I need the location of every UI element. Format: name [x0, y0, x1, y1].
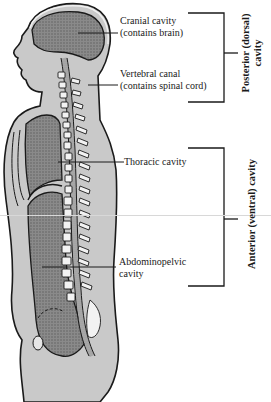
vertebral-label-line2: (contains spinal cord): [120, 80, 207, 92]
vertebral-canal-label: Vertebral canal (contains spinal cord): [120, 68, 207, 92]
vertebral-label-line1: Vertebral canal: [120, 68, 207, 80]
thoracic-cavity-label: Thoracic cavity: [124, 156, 186, 168]
body-cavities-illustration: [0, 0, 271, 402]
thoracic-label-line1: Thoracic cavity: [124, 156, 186, 168]
cranial-label-line1: Cranial cavity: [120, 15, 183, 27]
cranial-label-line2: (contains brain): [120, 27, 183, 39]
anterior-bracket: [188, 148, 238, 286]
anterior-label-line1: Anterior (ventral) cavity: [246, 147, 258, 281]
abdominopelvic-label-line1: Abdominopelvic: [119, 256, 186, 268]
posterior-label-line1: Posterior (dorsal): [240, 3, 252, 103]
posterior-label-line2: cavity: [252, 3, 264, 103]
scan-artifact-line: [0, 215, 271, 216]
cranial-cavity-label: Cranial cavity (contains brain): [120, 15, 183, 39]
abdominopelvic-label-line2: cavity: [119, 268, 186, 280]
anterior-cavity-group-label: Anterior (ventral) cavity: [246, 147, 258, 281]
abdominopelvic-cavity-label: Abdominopelvic cavity: [119, 256, 186, 280]
posterior-cavity-group-label: Posterior (dorsal) cavity: [240, 3, 264, 103]
